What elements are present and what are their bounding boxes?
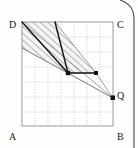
diagram-canvas: D C A B Q <box>0 0 138 148</box>
label-a: A <box>9 131 17 142</box>
label-c: C <box>117 19 124 30</box>
label-d: D <box>9 19 16 30</box>
point-r-marker <box>94 71 98 75</box>
label-b: B <box>117 131 124 142</box>
label-q: Q <box>117 90 125 101</box>
geometry-figure: D C A B Q <box>0 0 138 148</box>
point-m-marker <box>66 71 70 75</box>
point-q-marker <box>111 96 116 101</box>
